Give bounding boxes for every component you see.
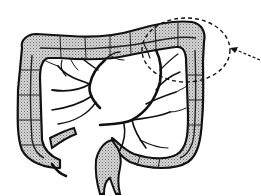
pointer-arrow-icon [230, 47, 260, 60]
rectum [96, 140, 121, 194]
colon-illustration [0, 0, 261, 196]
terminal-ileum [50, 128, 76, 148]
colon-diagram-svg [0, 0, 261, 196]
